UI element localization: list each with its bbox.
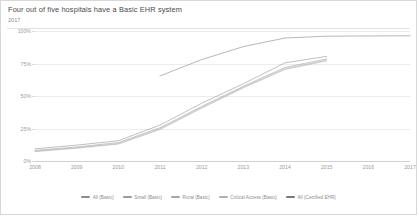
header-divider xyxy=(7,28,410,29)
legend-item-label: Rural (Basic) xyxy=(183,195,210,200)
legend-item-label: All (Certified EHR) xyxy=(297,195,335,200)
x-axis-tick-label: 2008 xyxy=(29,164,41,170)
x-axis-labels: 2008200920102011201220132014201520162017 xyxy=(35,164,410,178)
y-axis-tick-label: 100% xyxy=(18,28,31,34)
legend-line-icon xyxy=(286,196,295,198)
x-axis-tick-label: 2010 xyxy=(113,164,125,170)
x-axis-tick-label: 2015 xyxy=(321,164,333,170)
page-subtitle: 2017 xyxy=(8,17,20,23)
x-axis-tick-label: 2016 xyxy=(363,164,375,170)
x-axis-tick-label: 2012 xyxy=(196,164,208,170)
chart-legend: All (Basic)Small (Basic)Rural (Basic)Cri… xyxy=(1,189,416,205)
chart-card: Four out of five hospitals have a Basic … xyxy=(0,0,417,215)
legend-item[interactable]: Small (Basic) xyxy=(123,195,162,200)
legend-line-icon xyxy=(171,196,180,198)
legend-line-icon xyxy=(81,196,90,198)
x-axis-tick-label: 2017 xyxy=(404,164,416,170)
legend-line-icon xyxy=(219,196,228,198)
series-line xyxy=(35,60,327,151)
y-axis-tick-label: 75% xyxy=(21,61,31,67)
legend-item[interactable]: Critical Access (Basic) xyxy=(219,195,277,200)
chart-plot-area: 0%25%50%75%100% 200820092010201120122013… xyxy=(1,31,418,181)
page-title: Four out of five hospitals have a Basic … xyxy=(8,5,182,14)
series-lines xyxy=(35,31,410,161)
chart-header: Four out of five hospitals have a Basic … xyxy=(1,1,416,27)
legend-item[interactable]: Rural (Basic) xyxy=(171,195,210,200)
y-axis-tick-label: 25% xyxy=(21,126,31,132)
x-axis-tick-label: 2009 xyxy=(71,164,83,170)
chart-grid xyxy=(35,31,410,161)
x-axis-tick-label: 2013 xyxy=(238,164,250,170)
series-line xyxy=(160,36,410,76)
x-axis-tick-label: 2011 xyxy=(154,164,165,170)
y-axis-tick-label: 50% xyxy=(21,93,31,99)
legend-item-label: All (Basic) xyxy=(93,195,114,200)
series-line xyxy=(35,59,327,150)
legend-item[interactable]: All (Basic) xyxy=(81,195,114,200)
y-axis-labels: 0%25%50%75%100% xyxy=(1,31,35,161)
x-axis-tick-label: 2014 xyxy=(279,164,291,170)
legend-item[interactable]: All (Certified EHR) xyxy=(286,195,336,200)
legend-line-icon xyxy=(123,196,132,198)
series-line xyxy=(35,61,327,152)
legend-item-label: Small (Basic) xyxy=(134,195,162,200)
legend-item-label: Critical Access (Basic) xyxy=(230,195,277,200)
x-axis-line xyxy=(35,161,410,162)
